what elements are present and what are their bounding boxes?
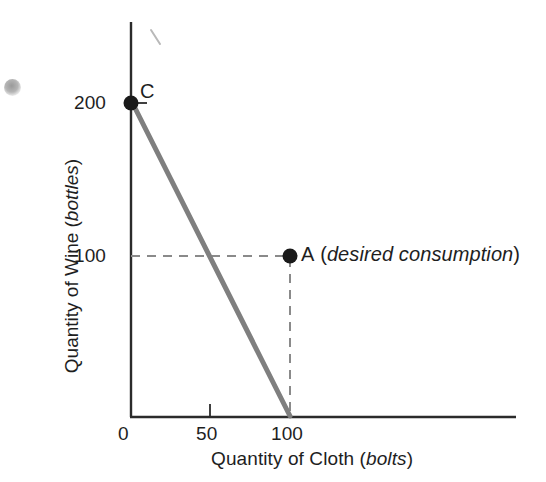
x-tick-label-0: 0 (118, 423, 129, 445)
y-tick-label-100: 100 (74, 245, 106, 267)
data-point-a-marker[interactable] (283, 249, 298, 264)
x-axis-title-plain: Quantity of Cloth ( (211, 448, 366, 469)
x-axis-title-units: bolts (366, 448, 407, 469)
ppf-line (133, 104, 290, 416)
x-axis-title: Quantity of Cloth (bolts) (211, 448, 413, 470)
data-point-a-annotation: desired consumption (327, 243, 513, 265)
y-tick-label-200: 200 (74, 92, 106, 114)
stray-pen-stroke-artifact (151, 30, 160, 44)
annotation-paren-close: ) (513, 243, 520, 265)
x-axis-title-close: ) (407, 448, 413, 469)
data-point-c-marker[interactable] (124, 96, 139, 111)
data-point-a-label-group: A (desired consumption) (301, 243, 520, 266)
chart-canvas (0, 0, 546, 482)
x-tick-label-50: 50 (196, 423, 217, 445)
data-point-a-label: A (301, 243, 314, 265)
data-point-c-label: C (140, 80, 155, 103)
annotation-paren-open: ( (320, 243, 327, 265)
chart-figure: 200 100 0 50 100 C A (desired consumptio… (0, 0, 546, 482)
x-tick-label-100: 100 (271, 423, 303, 445)
